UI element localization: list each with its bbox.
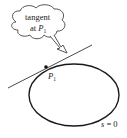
- point-label: P1: [47, 71, 56, 82]
- ellipse-curve: [29, 64, 119, 126]
- diagram-canvas: tangent at P1 P1 s = 0: [0, 0, 127, 138]
- callout-arrow: [50, 35, 67, 53]
- curve-eq: = 0: [104, 119, 117, 129]
- callout-text-line1: tangent: [25, 12, 51, 22]
- callout-at: at: [30, 23, 38, 33]
- tangent-line: [8, 45, 92, 88]
- callout-p-sub: 1: [43, 28, 46, 34]
- point-p1: [44, 65, 48, 69]
- curve-label: s = 0: [101, 119, 118, 129]
- point-sub: 1: [53, 76, 56, 82]
